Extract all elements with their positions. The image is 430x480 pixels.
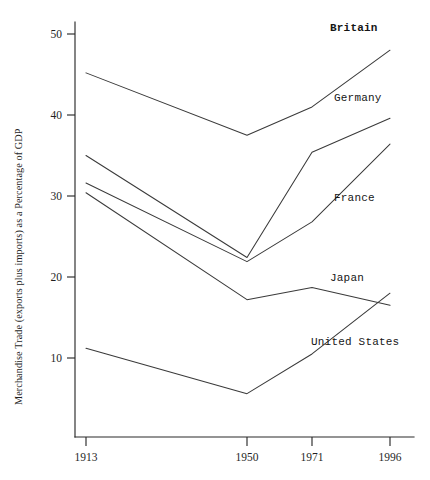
- y-tick-label-10: 10: [51, 352, 63, 364]
- series-line-japan: [86, 193, 390, 306]
- axes: [75, 22, 414, 437]
- x-axis-tick-labels: 1913 1950 1971 1996: [75, 451, 402, 463]
- y-axis-ticks: [67, 34, 75, 358]
- y-tick-label-50: 50: [51, 28, 63, 40]
- line-chart: Merchandise Trade (exports plus imports)…: [0, 0, 430, 480]
- series-label-germany: Germany: [334, 92, 382, 104]
- series-label-united-states: United States: [311, 336, 399, 348]
- series-label-france: France: [334, 192, 375, 204]
- x-tick-label-1913: 1913: [75, 451, 98, 463]
- x-tick-label-1950: 1950: [236, 451, 259, 463]
- chart-canvas: Merchandise Trade (exports plus imports)…: [0, 0, 430, 480]
- y-axis-title: Merchandise Trade (exports plus imports)…: [13, 128, 25, 405]
- x-tick-label-1996: 1996: [379, 451, 402, 463]
- series-label-britain: Britain: [330, 22, 378, 34]
- y-tick-label-20: 20: [51, 271, 63, 283]
- y-tick-label-30: 30: [51, 190, 63, 202]
- series-labels: BritainGermanyFranceJapanUnited States: [311, 22, 399, 348]
- series-label-japan: Japan: [330, 272, 364, 284]
- x-axis-ticks: [86, 437, 390, 446]
- series-line-germany: [86, 118, 390, 257]
- x-tick-label-1971: 1971: [301, 451, 324, 463]
- y-tick-label-40: 40: [51, 109, 63, 121]
- y-axis-tick-labels: 50 40 30 20 10: [51, 28, 63, 364]
